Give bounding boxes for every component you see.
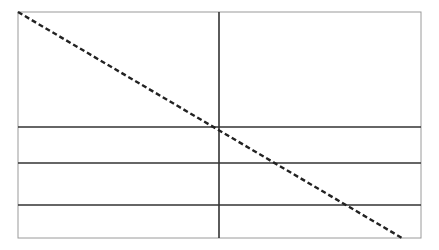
- grid-diagram: [0, 0, 439, 250]
- dashed-diagonal: [18, 12, 402, 238]
